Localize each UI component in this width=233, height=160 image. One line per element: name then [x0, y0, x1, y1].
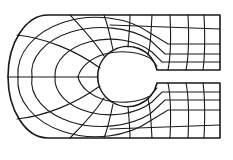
mesh-svg [0, 0, 233, 160]
mesh-diagram [0, 0, 233, 160]
radial-spokes [8, 15, 152, 138]
right-columns [168, 15, 205, 138]
